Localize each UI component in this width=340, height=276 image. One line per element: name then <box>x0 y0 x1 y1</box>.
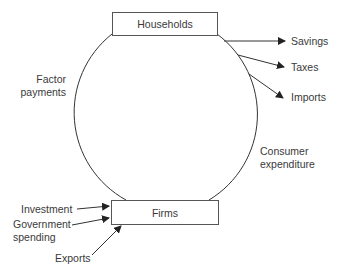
firms-box: Firms <box>111 200 219 225</box>
circular-flow-loop <box>74 34 257 200</box>
factor-payments-label: Factor payments <box>20 73 66 99</box>
households-box: Households <box>112 12 218 36</box>
households-label: Households <box>137 18 192 30</box>
government-spending-label: Government spending <box>13 218 71 244</box>
exports-label: Exports <box>55 252 91 265</box>
savings-label: Savings <box>291 35 328 48</box>
investment-label: Investment <box>21 203 72 216</box>
imports-label: Imports <box>291 91 326 104</box>
firms-label: Firms <box>152 207 178 219</box>
taxes-label: Taxes <box>291 61 318 74</box>
consumer-expenditure-label: Consumer expenditure <box>260 145 315 171</box>
